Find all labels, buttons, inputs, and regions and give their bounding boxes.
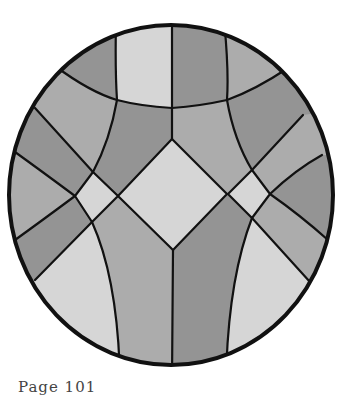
page-caption: Page 101 <box>18 378 96 396</box>
